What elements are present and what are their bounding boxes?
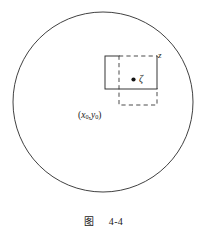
- figure-drawing-canvas: [0, 0, 207, 240]
- label-z: z: [158, 51, 162, 60]
- solid-rectangle-icon: [105, 56, 157, 89]
- caption-prefix: 图: [84, 216, 94, 227]
- circle-outline-icon: [13, 12, 193, 192]
- filled-dot-icon: [131, 77, 135, 81]
- figure-caption: 图 4-4: [0, 213, 207, 228]
- paren-close: ): [98, 110, 101, 120]
- caption-number: 4-4: [109, 216, 123, 227]
- label-zeta: ζ: [139, 74, 143, 84]
- label-corner-point: (x0,y0): [78, 111, 101, 121]
- figure-4-4: z ζ (x0,y0) 图 4-4: [0, 0, 207, 240]
- dashed-square-icon: [119, 56, 157, 105]
